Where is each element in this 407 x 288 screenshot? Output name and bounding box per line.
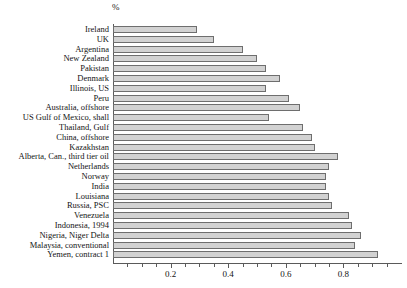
bar bbox=[113, 183, 326, 190]
category-label: New Zealand bbox=[63, 54, 109, 63]
bar-row: Denmark bbox=[113, 75, 401, 83]
x-tick-minor bbox=[185, 264, 186, 267]
bar-row: China, offshore bbox=[113, 134, 401, 142]
bar bbox=[113, 193, 329, 200]
x-tick-minor bbox=[300, 264, 301, 267]
bar bbox=[113, 153, 338, 160]
category-label: Kazakhstan bbox=[69, 143, 109, 152]
x-tick-minor bbox=[329, 264, 330, 267]
x-tick-minor bbox=[315, 264, 316, 267]
bar bbox=[113, 26, 197, 33]
bar bbox=[113, 222, 352, 229]
category-label: Illinois, US bbox=[70, 84, 109, 93]
bar-row: Venezuela bbox=[113, 212, 401, 220]
bar-row: Australia, offshore bbox=[113, 104, 401, 112]
x-tick-minor bbox=[199, 264, 200, 267]
category-label: Malaysia, conventional bbox=[30, 241, 109, 250]
bar bbox=[113, 36, 214, 43]
bar bbox=[113, 85, 266, 92]
category-label: Yemen, contract 1 bbox=[47, 250, 109, 259]
x-tick-major bbox=[343, 264, 344, 268]
bar-row: Peru bbox=[113, 95, 401, 103]
bar bbox=[113, 46, 243, 53]
category-label: Norway bbox=[82, 172, 109, 181]
category-label: China, offshore bbox=[56, 133, 109, 142]
category-label: Indonesia, 1994 bbox=[55, 221, 109, 230]
category-label: US Gulf of Mexico, shall bbox=[23, 113, 109, 122]
category-label: UK bbox=[97, 35, 109, 44]
x-tick-minor bbox=[358, 264, 359, 267]
bar-row: Argentina bbox=[113, 46, 401, 54]
bar-row: Norway bbox=[113, 173, 401, 181]
bar bbox=[113, 114, 269, 121]
bar bbox=[113, 144, 315, 151]
x-tick-minor bbox=[156, 264, 157, 267]
bar-row: Pakistan bbox=[113, 65, 401, 73]
plot-area: IrelandUKArgentinaNew ZealandPakistanDen… bbox=[113, 26, 401, 261]
bar-row: Yemen, contract 1 bbox=[113, 251, 401, 259]
bar bbox=[113, 232, 361, 239]
bar bbox=[113, 104, 300, 111]
x-tick-major bbox=[228, 264, 229, 268]
bar-row: UK bbox=[113, 36, 401, 44]
x-tick-minor bbox=[387, 264, 388, 267]
bar-chart: % IrelandUKArgentinaNew ZealandPakistanD… bbox=[0, 0, 407, 288]
bar-row: US Gulf of Mexico, shall bbox=[113, 114, 401, 122]
bar bbox=[113, 163, 329, 170]
bar-row: India bbox=[113, 183, 401, 191]
category-label: Ireland bbox=[85, 25, 109, 34]
x-tick-minor bbox=[372, 264, 373, 267]
bar-row: Ireland bbox=[113, 26, 401, 34]
x-tick-label: 0.8 bbox=[338, 269, 349, 279]
bar bbox=[113, 134, 312, 141]
category-label: Pakistan bbox=[80, 64, 109, 73]
category-label: Argentina bbox=[75, 45, 109, 54]
x-tick-major bbox=[286, 264, 287, 268]
bar bbox=[113, 55, 257, 62]
category-label: India bbox=[92, 182, 109, 191]
bar bbox=[113, 124, 303, 131]
category-label: Nigeria, Niger Delta bbox=[39, 231, 109, 240]
bar-row: Netherlands bbox=[113, 163, 401, 171]
bar bbox=[113, 173, 326, 180]
x-tick-minor bbox=[257, 264, 258, 267]
x-tick-minor bbox=[127, 264, 128, 267]
category-label: Louisiana bbox=[75, 192, 109, 201]
x-tick-minor bbox=[271, 264, 272, 267]
x-tick-minor bbox=[142, 264, 143, 267]
x-tick-label: 0.4 bbox=[223, 269, 234, 279]
bar bbox=[113, 251, 378, 258]
bar bbox=[113, 65, 266, 72]
bar-row: Kazakhstan bbox=[113, 144, 401, 152]
category-label: Thailand, Gulf bbox=[59, 123, 109, 132]
bar bbox=[113, 75, 280, 82]
bar-row: Indonesia, 1994 bbox=[113, 222, 401, 230]
category-label: Peru bbox=[93, 94, 109, 103]
bar-row: Thailand, Gulf bbox=[113, 124, 401, 132]
category-label: Australia, offshore bbox=[45, 103, 109, 112]
category-label: Alberta, Can., third tier oil bbox=[19, 152, 109, 161]
category-label: Denmark bbox=[77, 74, 109, 83]
bar-row: Louisiana bbox=[113, 193, 401, 201]
bar-row: New Zealand bbox=[113, 55, 401, 63]
x-tick-label: 0.2 bbox=[165, 269, 176, 279]
bar bbox=[113, 95, 289, 102]
bar-row: Malaysia, conventional bbox=[113, 242, 401, 250]
axis-unit-label: % bbox=[112, 2, 120, 12]
x-tick-minor bbox=[214, 264, 215, 267]
category-label: Russia, PSC bbox=[67, 201, 109, 210]
x-tick-minor bbox=[243, 264, 244, 267]
bar-row: Russia, PSC bbox=[113, 202, 401, 210]
bar bbox=[113, 212, 349, 219]
bar bbox=[113, 242, 355, 249]
category-label: Netherlands bbox=[68, 162, 109, 171]
category-label: Venezuela bbox=[74, 211, 109, 220]
bar-row: Alberta, Can., third tier oil bbox=[113, 153, 401, 161]
bar-row: Nigeria, Niger Delta bbox=[113, 232, 401, 240]
x-tick-major bbox=[171, 264, 172, 268]
x-tick-label: 0.6 bbox=[280, 269, 291, 279]
bar bbox=[113, 202, 332, 209]
bar-row: Illinois, US bbox=[113, 85, 401, 93]
